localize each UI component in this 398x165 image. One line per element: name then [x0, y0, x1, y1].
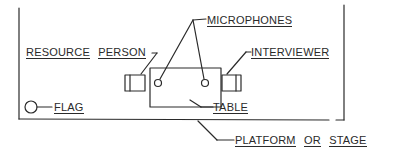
table-shape: [150, 68, 221, 107]
interviewer-chair-icon: [222, 75, 241, 91]
flag-label: FLAG: [54, 101, 84, 113]
interviewer-leader: [227, 52, 251, 74]
platform-label: PLATFORM OR STAGE: [235, 134, 367, 146]
interviewer-label: INTERVIEWER: [251, 46, 329, 58]
microphone-right-icon: [202, 80, 209, 87]
microphones-leader: [160, 19, 206, 79]
table-leader: [190, 100, 213, 107]
stage-diagram: MICROPHONES RESOURCE PERSON INTERVIEWER …: [0, 0, 398, 165]
flag-icon: [25, 101, 37, 113]
table-label: TABLE: [213, 101, 248, 113]
platform-leader: [198, 121, 234, 140]
microphones-label: MICROPHONES: [207, 14, 292, 26]
resource-person-chair-icon: [125, 75, 145, 91]
resource-person-label: RESOURCE PERSON: [26, 46, 146, 58]
microphone-left-icon: [155, 80, 162, 87]
